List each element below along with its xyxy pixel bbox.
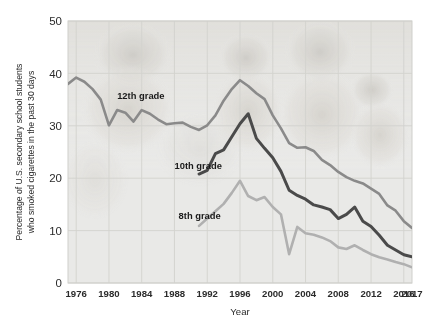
chart-figure: 01020304050 1976198019841988199219962000…: [0, 0, 445, 331]
x-tick-label: 2017: [401, 288, 422, 299]
x-tick-label: 1980: [98, 288, 119, 299]
x-tick-label: 1988: [164, 288, 186, 299]
x-tick-label: 1976: [66, 288, 87, 299]
x-tick-label: 2000: [262, 288, 283, 299]
y-tick-label: 50: [49, 15, 62, 27]
x-tick-label: 2012: [360, 288, 381, 299]
x-tick-label: 1992: [197, 288, 218, 299]
series-label-10th-grade: 10th grade: [174, 160, 221, 171]
x-axis-label: Year: [230, 306, 250, 317]
y-axis-label: Percentage of U.S. secondary school stud…: [14, 64, 36, 241]
y-axis-ticks: 01020304050: [49, 15, 62, 289]
y-tick-label: 30: [49, 120, 62, 132]
x-tick-label: 2008: [328, 288, 350, 299]
y-axis-label-line2: who smoked cigarettes in the past 30 day…: [26, 71, 36, 234]
y-tick-label: 20: [49, 172, 62, 184]
x-tick-label: 2004: [295, 288, 317, 299]
x-tick-label: 1984: [131, 288, 153, 299]
line-chart: 01020304050 1976198019841988199219962000…: [0, 0, 445, 331]
series-label-12th-grade: 12th grade: [117, 90, 164, 101]
series-label-8th-grade: 8th grade: [179, 210, 221, 221]
y-tick-label: 40: [49, 68, 62, 80]
y-axis-label-line1: Percentage of U.S. secondary school stud…: [14, 64, 24, 241]
y-tick-label: 0: [56, 277, 62, 289]
x-axis-ticks: 1976198019841988199219962000200420082012…: [66, 288, 423, 299]
y-tick-label: 10: [49, 225, 62, 237]
x-tick-label: 1996: [229, 288, 250, 299]
